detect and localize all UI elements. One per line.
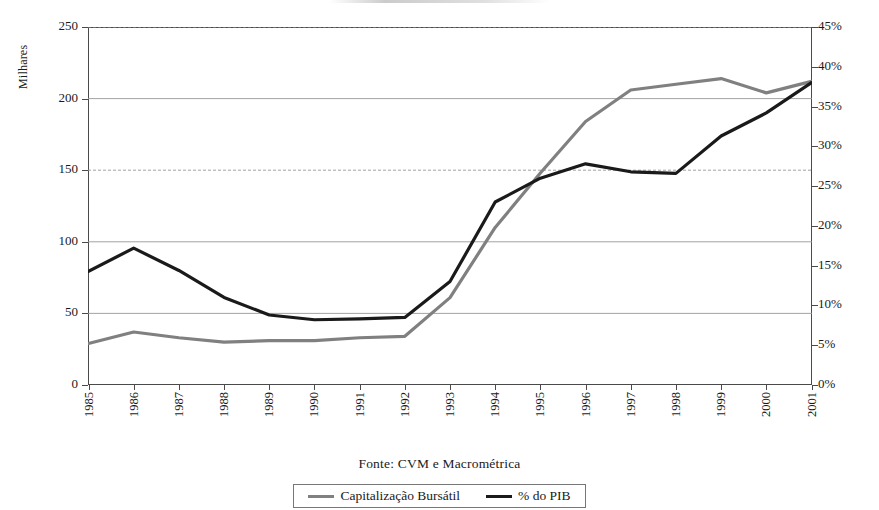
x-axis-tick-mark: [360, 385, 361, 390]
y-axis-right-tick-label: 25%: [818, 178, 864, 191]
y-axis-left-tick-label: 0: [32, 377, 78, 390]
x-axis-tick-mark: [812, 385, 813, 390]
y-axis-left-tick-label: 200: [32, 91, 78, 104]
y-axis-right-tick-mark: [812, 27, 818, 28]
y-axis-left-tick-label: 150: [32, 162, 78, 175]
plot-area: [88, 27, 812, 385]
x-axis-tick-mark: [179, 385, 180, 390]
legend-item: % do PIB: [486, 488, 571, 504]
y-axis-left-tick-label: 250: [32, 19, 78, 32]
x-axis-tick-mark: [495, 385, 496, 390]
legend-box: Capitalização Bursátil% do PIB: [293, 484, 585, 508]
y-axis-right-tick-label: 30%: [818, 138, 864, 151]
x-axis-tick-mark: [405, 385, 406, 390]
y-axis-right-tick-label: 45%: [818, 19, 864, 32]
x-axis-tick-mark: [586, 385, 587, 390]
y-axis-right-tick-mark: [812, 67, 818, 68]
y-axis-right-tick-mark: [812, 266, 818, 267]
y-axis-right-tick-mark: [812, 186, 818, 187]
y-axis-left-tick-mark: [82, 385, 88, 386]
x-axis-tick-mark: [676, 385, 677, 390]
x-axis-tick-label: 1999: [714, 392, 729, 417]
x-axis-tick-mark: [314, 385, 315, 390]
x-axis-tick-label: 1995: [533, 392, 548, 417]
legend: Capitalização Bursátil% do PIB: [0, 484, 879, 508]
x-axis-tick-mark: [766, 385, 767, 390]
x-axis-tick-mark: [89, 385, 90, 390]
source-note: Fonte: CVM e Macrométrica: [0, 456, 879, 472]
x-axis-tick-mark: [540, 385, 541, 390]
x-axis-tick-label: 1996: [579, 392, 594, 417]
y-axis-right-tick-label: 20%: [818, 218, 864, 231]
y-axis-right-tick-label: 15%: [818, 258, 864, 271]
x-axis-tick-mark: [450, 385, 451, 390]
y-axis-right-tick-mark: [812, 107, 818, 108]
y-axis-left-tick-label: 100: [32, 234, 78, 247]
x-axis-tick-label: 2001: [805, 392, 820, 417]
y-axis-right-tick-label: 40%: [818, 59, 864, 72]
series-line: [89, 79, 812, 344]
y-axis-right-tick-label: 5%: [818, 337, 864, 350]
x-axis-tick-label: 1993: [443, 392, 458, 417]
x-axis-tick-mark: [631, 385, 632, 390]
x-axis-tick-label: 1989: [262, 392, 277, 417]
x-axis-tick-label: 1987: [172, 392, 187, 417]
series-canvas: [88, 27, 812, 385]
legend-swatch-line: [486, 495, 512, 498]
x-axis-tick-label: 1994: [488, 392, 503, 417]
y-axis-right-tick-mark: [812, 305, 818, 306]
y-axis-right-tick-mark: [812, 345, 818, 346]
cropped-title-artifact: [330, 0, 550, 3]
x-axis-tick-mark: [134, 385, 135, 390]
y-axis-right-tick-mark: [812, 146, 818, 147]
chart-figure: Milhares 250200150100500 45%40%35%30%25%…: [0, 0, 879, 510]
y-axis-right-tick-label: 10%: [818, 297, 864, 310]
y-axis-right-tick-label: 35%: [818, 99, 864, 112]
x-axis-tick-mark: [269, 385, 270, 390]
y-axis-left-tick-label: 50: [32, 305, 78, 318]
x-axis-tick-mark: [224, 385, 225, 390]
x-axis-tick-label: 2000: [759, 392, 774, 417]
x-axis-tick-label: 1991: [353, 392, 368, 417]
y-axis-right-tick-mark: [812, 226, 818, 227]
x-axis-tick-label: 1997: [624, 392, 639, 417]
series-line: [89, 83, 812, 320]
legend-item: Capitalização Bursátil: [308, 488, 460, 504]
x-axis-tick-label: 1988: [217, 392, 232, 417]
y-axis-left-title: Milhares: [12, 22, 34, 112]
y-axis-right-tick-label: 0%: [818, 377, 864, 390]
legend-swatch-line: [308, 495, 334, 498]
x-axis-tick-mark: [721, 385, 722, 390]
x-axis-tick-label: 1992: [398, 392, 413, 417]
x-axis-tick-label: 1986: [127, 392, 142, 417]
x-axis-tick-label: 1985: [82, 392, 97, 417]
x-axis-tick-label: 1998: [669, 392, 684, 417]
legend-item-label: % do PIB: [518, 488, 571, 504]
y-axis-right-tick-mark: [812, 385, 818, 386]
legend-item-label: Capitalização Bursátil: [340, 488, 460, 504]
x-axis-tick-label: 1990: [307, 392, 322, 417]
